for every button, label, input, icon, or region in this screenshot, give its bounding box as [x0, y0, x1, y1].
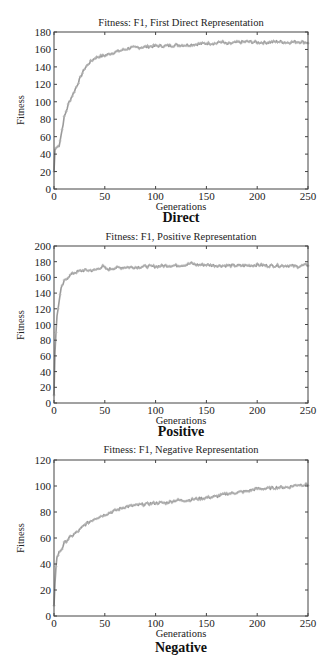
- y-tick-label: 140: [35, 287, 52, 299]
- y-axis-label: Fitness: [15, 523, 26, 553]
- chart-title: Fitness: F1, First Direct Representation: [98, 17, 264, 28]
- y-tick-label: 100: [35, 96, 52, 108]
- plot-frame: [54, 246, 308, 403]
- y-tick-label: 0: [46, 610, 52, 622]
- x-tick-label: 150: [198, 617, 215, 629]
- y-tick-label: 60: [40, 350, 52, 362]
- y-tick-label: 120: [35, 78, 52, 90]
- x-tick-label: 200: [249, 404, 266, 416]
- x-tick-label: 150: [198, 404, 215, 416]
- fitness-series: [53, 39, 310, 173]
- y-axis-label: Fitness: [15, 95, 26, 125]
- y-tick-label: 80: [40, 113, 52, 125]
- y-tick-label: 80: [40, 506, 52, 518]
- axis-ticks: 0501001502002500204060801001201401601802…: [35, 240, 317, 416]
- chart-direct: Fitness: F1, First Direct Representation…: [0, 0, 333, 222]
- y-tick-label: 40: [40, 366, 52, 378]
- y-tick-label: 180: [35, 256, 52, 268]
- y-tick-label: 120: [35, 303, 52, 315]
- x-tick-label: 0: [51, 617, 57, 629]
- y-tick-label: 200: [35, 240, 52, 252]
- y-tick-label: 20: [40, 584, 52, 596]
- x-tick-label: 200: [249, 617, 266, 629]
- y-tick-label: 40: [40, 148, 52, 160]
- chart-direct-svg: Fitness: F1, First Direct Representation…: [0, 0, 333, 222]
- y-tick-label: 100: [35, 319, 52, 331]
- x-tick-label: 50: [99, 190, 111, 202]
- x-axis-label: Generations: [156, 628, 207, 639]
- x-tick-label: 100: [147, 617, 164, 629]
- y-tick-label: 120: [35, 454, 52, 466]
- x-tick-label: 0: [51, 190, 57, 202]
- y-tick-label: 180: [35, 26, 52, 38]
- axis-ticks: 050100150200250020406080100120: [35, 454, 317, 629]
- plot-frame: [54, 460, 308, 616]
- x-tick-label: 250: [300, 617, 317, 629]
- x-tick-label: 50: [99, 404, 111, 416]
- x-tick-label: 250: [300, 190, 317, 202]
- x-tick-label: 100: [147, 404, 164, 416]
- y-tick-label: 60: [40, 131, 52, 143]
- x-tick-label: 200: [249, 190, 266, 202]
- x-tick-label: 50: [99, 617, 111, 629]
- x-tick-label: 250: [300, 404, 317, 416]
- x-axis-label: Generations: [156, 415, 207, 426]
- plot-frame: [54, 32, 308, 189]
- y-tick-label: 60: [40, 532, 52, 544]
- chart-caption: Direct: [162, 210, 199, 222]
- y-tick-label: 140: [35, 61, 52, 73]
- x-tick-label: 0: [51, 404, 57, 416]
- y-axis-label: Fitness: [15, 310, 26, 340]
- y-tick-label: 20: [40, 381, 52, 393]
- y-tick-label: 160: [35, 271, 52, 283]
- chart-title: Fitness: F1, Positive Representation: [105, 231, 257, 242]
- y-tick-label: 20: [40, 166, 52, 178]
- y-tick-label: 100: [35, 480, 52, 492]
- y-tick-label: 160: [35, 43, 52, 55]
- fitness-series: [53, 482, 310, 607]
- chart-caption: Positive: [158, 424, 205, 439]
- fitness-series: [53, 262, 310, 397]
- axis-ticks: 050100150200250020406080100120140160180: [35, 26, 317, 202]
- y-tick-label: 80: [40, 334, 52, 346]
- chart-caption: Negative: [155, 640, 207, 655]
- y-tick-label: 40: [40, 558, 52, 570]
- chart-title: Fitness: F1, Negative Representation: [103, 444, 259, 455]
- y-tick-label: 0: [46, 397, 52, 409]
- y-tick-label: 0: [46, 183, 52, 195]
